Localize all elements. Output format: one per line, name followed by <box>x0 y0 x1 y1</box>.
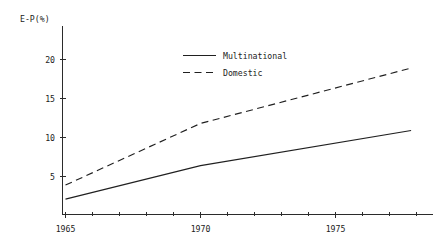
y-tick-label: 10 <box>45 133 55 143</box>
series-line-domestic <box>66 68 412 185</box>
x-axis-tick-labels: 1965 1970 1975 <box>56 224 346 234</box>
series-line-multinational <box>66 130 412 199</box>
y-axis-tick-labels: 20 15 10 5 <box>45 55 55 182</box>
x-tick-label: 1970 <box>191 224 211 234</box>
chart-legend: Multinational Domestic <box>183 51 287 78</box>
y-tick-label: 5 <box>50 172 55 182</box>
data-series-layer <box>66 68 412 199</box>
x-tick-label: 1965 <box>56 224 76 234</box>
x-tick-label: 1975 <box>326 224 346 234</box>
y-tick-label: 20 <box>45 55 55 65</box>
y-tick-label: 15 <box>45 94 55 104</box>
line-chart-canvas: E-P(%) 20 15 10 5 <box>0 0 440 251</box>
chart-figure: E-P(%) 20 15 10 5 <box>0 0 440 251</box>
y-axis-title: E-P(%) <box>20 14 50 24</box>
legend-label-multinational: Multinational <box>223 51 287 61</box>
legend-label-domestic: Domestic <box>223 68 263 78</box>
